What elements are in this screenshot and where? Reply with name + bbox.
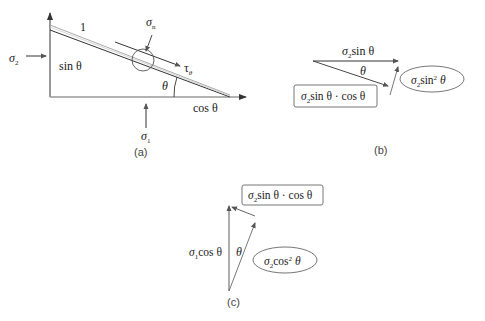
stress-diagram: 1 σn τθ σ2 sin θ θ cos θ σ1 (a) σ2sin θ … [0,0,485,321]
panel-a: 1 σn τθ σ2 sin θ θ cos θ σ1 (a) [9,13,246,158]
panel-c: σ2sin θ · cos θ σ1cos θ θ σ2cos2 θ (c) [189,185,323,308]
c-short-arrow [232,207,255,216]
panel-b: σ2sin θ θ σ2sin θ · cos θ σ2sin2 θ (b) [294,44,464,156]
c-box-label: σ2sin θ · cos θ [248,189,313,204]
b-top-label: σ2sin θ [342,44,374,60]
sigma1-label: σ1 [141,129,151,145]
small-arrow [390,67,398,95]
sigma-n-label: σn [146,15,156,31]
hypotenuse-label: 1 [80,20,86,34]
diagonal-arrow [313,61,388,86]
caption-a: (a) [134,146,147,158]
tau-theta-label: τθ [184,61,193,77]
angle-arc [174,77,177,97]
b-theta-label: θ [360,64,366,78]
c-long-arrow [229,223,255,291]
caption-c: (c) [227,296,240,308]
caption-b: (b) [374,144,387,156]
theta-label: θ [162,79,168,93]
normal-stress-pointer [146,35,152,51]
sin-theta-label: sin θ [59,59,82,73]
c-theta-label: θ [236,245,242,259]
sigma2-label: σ2 [9,51,19,67]
c-left-label: σ1cos θ [189,246,222,261]
b-ellipse-label: σ2sin2 θ [411,74,446,89]
cos-theta-label: cos θ [193,101,218,115]
b-box-label: σ2sin θ · cos θ [301,90,366,105]
c-ellipse-label: σ2cos2 θ [264,255,301,270]
